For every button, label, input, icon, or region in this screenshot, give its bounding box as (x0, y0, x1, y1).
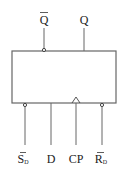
input-set-direct: SD (17, 103, 29, 166)
output-q: Q (80, 13, 89, 51)
inverter-bubble-icon (42, 48, 45, 51)
inverter-bubble-icon (23, 103, 26, 106)
inverter-bubble-icon (100, 103, 103, 106)
q-label: Q (80, 13, 89, 27)
input-data: D (47, 103, 56, 166)
q-bar-label: Q (40, 13, 49, 27)
flip-flop-body (12, 51, 116, 103)
d-label: D (47, 152, 56, 166)
flip-flop-diagram: Q Q SD D CP RD (0, 0, 126, 175)
cp-label: CP (69, 152, 84, 166)
output-q-bar: Q (40, 13, 49, 52)
sd-label: SD (17, 152, 29, 166)
rd-label: RD (95, 152, 108, 166)
input-reset-direct: RD (95, 103, 108, 166)
input-clock: CP (69, 97, 84, 166)
clock-triangle-icon (72, 97, 80, 103)
